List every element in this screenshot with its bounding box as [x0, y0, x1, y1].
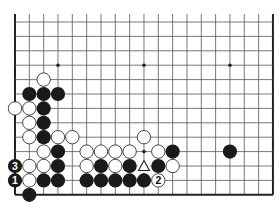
black-stone: 1 [8, 173, 22, 187]
move-number-label: 1 [12, 174, 18, 186]
black-stone [166, 145, 180, 159]
black-stone [51, 145, 65, 159]
white-stone [23, 131, 36, 144]
white-stone [37, 159, 50, 172]
black-stone [123, 173, 137, 187]
white-stone [137, 131, 150, 144]
black-stone [123, 159, 137, 173]
black-stone [94, 159, 108, 173]
white-stone: 2 [152, 174, 165, 187]
white-stone [166, 159, 179, 172]
white-stone [23, 159, 36, 172]
board-markers [137, 160, 150, 173]
black-stone [108, 173, 122, 187]
black-stone [37, 87, 51, 101]
black-stone: 3 [8, 159, 22, 173]
white-stone [109, 159, 122, 172]
white-stone [152, 145, 165, 158]
white-stone [80, 145, 93, 158]
move-number-label: 2 [155, 174, 161, 186]
black-stone [37, 173, 51, 187]
white-stone [23, 116, 36, 129]
black-stone [37, 101, 51, 115]
black-stone [80, 173, 94, 187]
black-stone [51, 159, 65, 173]
white-stone [66, 131, 79, 144]
white-stone [37, 145, 50, 158]
white-stone [23, 174, 36, 187]
black-stone [94, 173, 108, 187]
white-stone [8, 102, 21, 115]
black-stone [51, 173, 65, 187]
black-stone [37, 116, 51, 130]
black-stone [22, 188, 36, 202]
black-stone [37, 130, 51, 144]
black-stone [51, 87, 65, 101]
white-stone [123, 145, 136, 158]
white-stone [80, 159, 93, 172]
white-stone [51, 131, 64, 144]
white-stone [23, 102, 36, 115]
black-stone [22, 87, 36, 101]
white-stone [94, 145, 107, 158]
white-stone [109, 145, 122, 158]
black-stone [137, 173, 151, 187]
star-point-icon [228, 63, 232, 67]
star-point-icon [142, 150, 146, 154]
go-board: 312 [0, 0, 280, 209]
move-number-label: 3 [12, 160, 18, 172]
white-stone [37, 73, 50, 86]
black-stone [151, 159, 165, 173]
star-point-icon [142, 63, 146, 67]
star-point-icon [56, 63, 60, 67]
black-stone [223, 145, 237, 159]
